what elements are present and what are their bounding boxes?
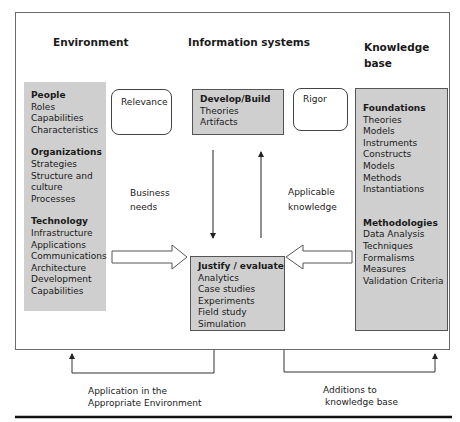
connector-layer — [0, 0, 460, 422]
hollow-left-arrow-icon — [286, 245, 352, 269]
hollow-right-arrow-icon — [112, 245, 187, 269]
additions-connector-arrow-icon — [284, 350, 435, 372]
application-connector-arrow-icon — [72, 350, 214, 373]
